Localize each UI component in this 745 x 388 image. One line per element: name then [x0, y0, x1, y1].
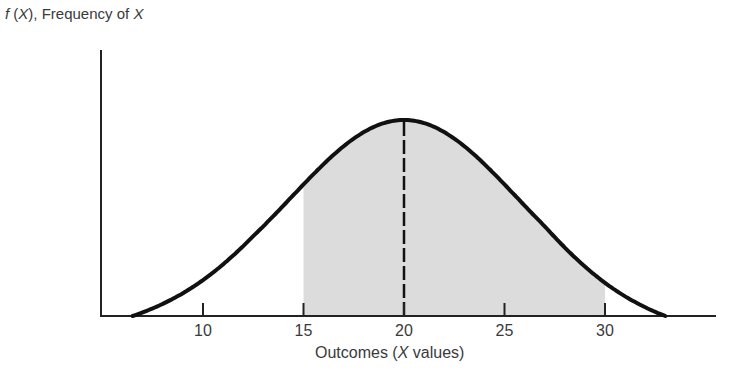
normal-distribution-chart — [0, 0, 745, 388]
x-tick-label-30: 30 — [596, 322, 614, 340]
x-label-var: X — [398, 344, 409, 361]
shaded-area-15-to-30 — [304, 120, 606, 316]
x-tick-label-10: 10 — [194, 322, 212, 340]
x-label-suffix: values) — [408, 344, 464, 361]
x-tick-label-15: 15 — [295, 322, 313, 340]
x-tick-label-25: 25 — [496, 322, 514, 340]
x-axis-label: Outcomes (X values) — [315, 344, 464, 362]
x-tick-label-20: 20 — [395, 322, 413, 340]
x-label-prefix: Outcomes ( — [315, 344, 398, 361]
